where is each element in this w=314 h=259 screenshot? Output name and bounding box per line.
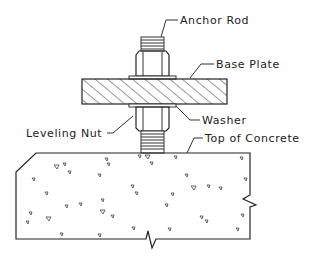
concrete-block — [16, 153, 256, 248]
label-leveling-nut: Leveling Nut — [26, 127, 102, 140]
concrete-aggregate — [26, 155, 247, 237]
label-anchor-rod: Anchor Rod — [180, 14, 249, 27]
label-base-plate: Base Plate — [216, 58, 280, 71]
anchor-rod-diagram: Anchor Rod Base Plate Washer Leveling Nu… — [0, 0, 314, 259]
label-washer: Washer — [202, 114, 247, 127]
leveling-nut — [136, 107, 169, 131]
top-nut — [136, 51, 169, 76]
anchor-rod-bottom-threads — [141, 131, 164, 153]
label-top-of-concrete: Top of Concrete — [204, 132, 300, 145]
anchor-rod-top-threads — [141, 37, 164, 51]
base-plate — [82, 79, 227, 104]
